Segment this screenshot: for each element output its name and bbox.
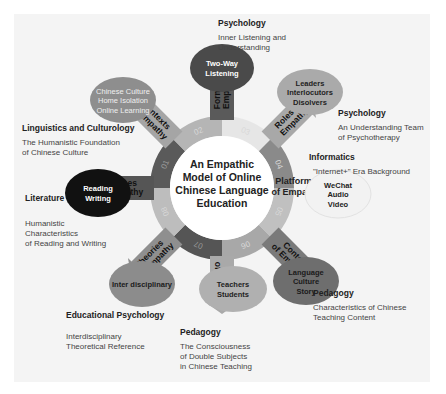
description-contexts: The Humanistic Foundation of Chinese Cul… — [22, 138, 134, 158]
label-roles: Psychology An Understanding Team of Psyc… — [338, 108, 424, 143]
discipline-roles: Psychology — [338, 108, 424, 118]
center-title-line: Model of Online — [183, 171, 262, 183]
label-platforms: Informatics "Internet+" Era Background — [309, 152, 410, 177]
description-roles: An Understanding Team of Psychotherapy — [338, 123, 424, 143]
bubble-text: Two-Way — [206, 59, 239, 68]
description-subjects: The Consciousness of Double Subjects in … — [180, 342, 252, 372]
bubble-theories: Inter disciplinary — [109, 261, 175, 307]
bubble-text: Culture — [293, 277, 319, 286]
bubble-contexts: Chinese CultureHome IsolationOnline Lear… — [90, 77, 156, 123]
label-subjects: Pedagogy The Consciousness of Double Sub… — [180, 327, 252, 372]
bubble-text: Chinese Culture — [96, 87, 150, 96]
bubble-text: Interlocutors — [287, 88, 333, 97]
discipline-forms: Psychology — [218, 18, 286, 28]
bubble-platforms: WeChatAudioVideo — [305, 170, 371, 218]
center-title-line: Chinese Language — [175, 184, 269, 196]
bubble-text: Online Learning — [97, 106, 150, 115]
description-platforms: "Internet+" Era Background — [313, 167, 410, 177]
description-theories: Interdisciplinary Theoretical Reference — [66, 332, 164, 352]
description-courses: Humanistic Characteristics of Reading an… — [25, 219, 106, 249]
bubble-text: Inter disciplinary — [112, 280, 173, 289]
bubble-subjects: TeachersStudents — [199, 266, 267, 312]
bubble-text: Home Isolation — [98, 96, 148, 105]
discipline-contexts: Linguistics and Culturology — [22, 123, 134, 133]
label-forms: Psychology Inner Listening and Understan… — [218, 18, 286, 53]
label-theories: Educational Psychology Interdisciplinary… — [66, 310, 164, 352]
bubble-text: Leaders — [296, 79, 325, 88]
discipline-content: Pedagogy — [313, 288, 406, 298]
discipline-platforms: Informatics — [309, 152, 410, 162]
bubble-text: Listening — [205, 69, 239, 78]
bubble-roles: LeadersInterlocutorsDisolvers — [277, 69, 343, 115]
description-forms: Inner Listening and Understanding — [218, 33, 286, 53]
bubble-text: Disolvers — [293, 98, 327, 107]
label-content: Pedagogy Characteristics of Chinese Teac… — [313, 288, 406, 323]
center-title-line: An Empathic — [190, 158, 254, 170]
bubble-text: Teachers — [217, 280, 249, 289]
bubble-text: Audio — [327, 190, 349, 199]
center-title-line: Education — [197, 197, 248, 209]
description-content: Characteristics of Chinese Teaching Cont… — [313, 303, 406, 323]
discipline-courses: Literature — [25, 193, 106, 203]
bubble-text: Video — [328, 200, 349, 209]
discipline-theories: Educational Psychology — [66, 310, 164, 320]
discipline-subjects: Pedagogy — [180, 327, 252, 337]
label-contexts: Linguistics and Culturology The Humanist… — [22, 123, 134, 158]
bubble-text: Reading — [83, 184, 113, 193]
label-courses: Literature Humanistic Characteristics of… — [25, 193, 106, 249]
bubble-text: WeChat — [324, 181, 352, 190]
bubble-text: Students — [217, 290, 249, 299]
bubble-text: Language — [288, 268, 323, 277]
